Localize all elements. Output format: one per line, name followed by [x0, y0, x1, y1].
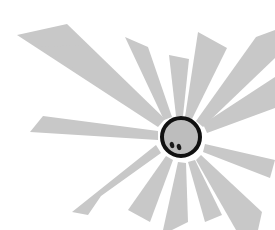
sun-drawing — [0, 0, 275, 230]
sun-illustration — [0, 0, 275, 230]
sun-face — [162, 118, 200, 156]
